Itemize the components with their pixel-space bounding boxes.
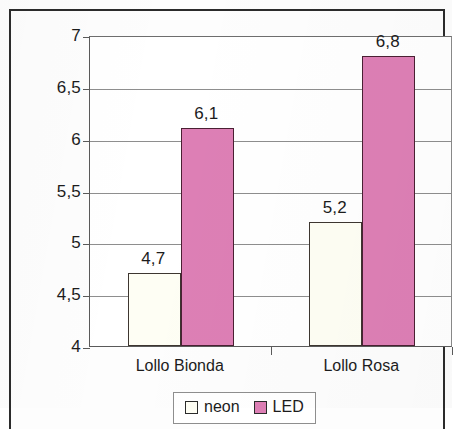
legend-swatch-neon-icon <box>185 401 198 414</box>
y-axis-tick-label: 5 <box>71 233 81 253</box>
y-axis-tick-label: 5,5 <box>57 182 81 202</box>
x-axis-category-label: Lollo Bionda <box>136 357 224 375</box>
bar-lollo-bionda-led <box>181 128 234 346</box>
y-axis-tick <box>83 89 90 90</box>
y-axis-tick <box>83 141 90 142</box>
bar-value-label: 6,1 <box>194 104 218 124</box>
legend-entry-led: LED <box>254 398 304 416</box>
y-axis-tick-label: 7 <box>71 26 81 46</box>
y-axis: 76,565,554,54 <box>11 11 81 419</box>
y-axis-tick <box>83 37 90 38</box>
bar-value-label: 4,7 <box>141 249 165 269</box>
x-axis-category-label: Lollo Rosa <box>323 357 399 375</box>
y-axis-tick-label: 6,5 <box>57 78 81 98</box>
plot-area <box>89 36 452 347</box>
bar-lollo-rosa-led <box>362 56 415 346</box>
y-axis-tick-label: 6 <box>71 130 81 150</box>
bar-lollo-bionda-neon <box>128 273 181 346</box>
y-axis-tick-label: 4,5 <box>57 285 81 305</box>
legend-label-neon: neon <box>204 398 240 416</box>
bar-value-label: 6,8 <box>376 32 400 52</box>
y-axis-tick <box>83 296 90 297</box>
bar-lollo-rosa-neon <box>309 222 362 346</box>
figure-frame: 76,565,554,54 Lollo BiondaLollo Rosa 4,7… <box>9 9 445 429</box>
bar-value-label: 5,2 <box>323 198 347 218</box>
legend-label-led: LED <box>273 398 304 416</box>
legend: neon LED <box>173 392 316 424</box>
y-axis-tick-label: 4 <box>71 337 81 357</box>
y-axis-tick <box>83 348 90 349</box>
legend-entry-neon: neon <box>185 398 240 416</box>
y-axis-tick <box>83 244 90 245</box>
x-axis-tick <box>271 347 272 355</box>
y-axis-tick <box>83 193 90 194</box>
legend-swatch-led-icon <box>254 401 267 414</box>
